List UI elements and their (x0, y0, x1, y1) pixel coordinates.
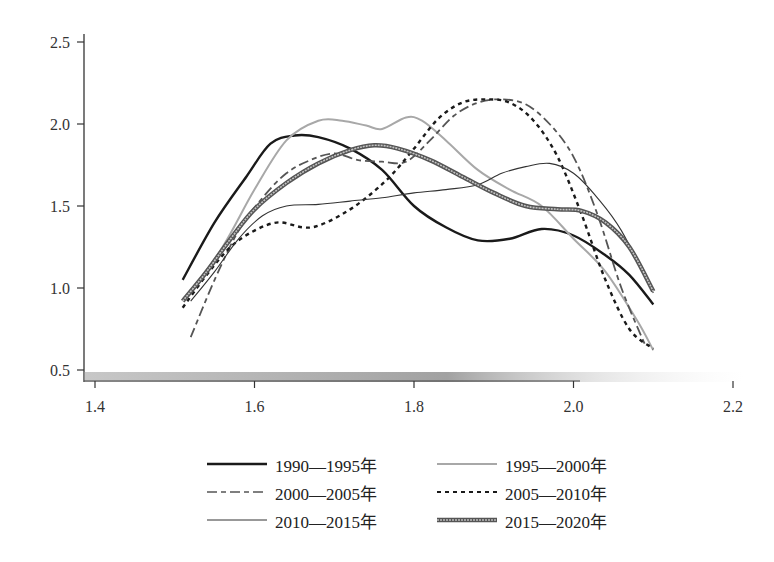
x-axis: 1.41.61.82.02.2 (84, 372, 744, 415)
y-tick-label: 0.5 (50, 362, 70, 379)
y-tick-label: 2.5 (50, 34, 70, 51)
legend-swatch-dotted (435, 487, 497, 497)
legend-label: 2010—2015年 (275, 508, 377, 533)
series-line-3 (183, 99, 654, 348)
y-axis: 0.51.01.52.02.5 (50, 34, 84, 382)
legend-item-2015-2020: 2015—2020年 (435, 508, 665, 533)
legend-item-2000-2005: 2000—2005年 (205, 480, 435, 505)
legend-swatch-solid-thin (205, 515, 267, 525)
series-line-1 (191, 117, 654, 350)
legend-swatch-dash-dot (205, 487, 267, 497)
x-tick-label: 2.0 (564, 398, 584, 415)
x-tick-label: 1.8 (404, 398, 424, 415)
legend-item-2010-2015: 2010—2015年 (205, 508, 435, 533)
legend-swatch-solid-thick (205, 459, 267, 469)
x-tick-label: 2.2 (723, 398, 743, 415)
x-tick-label: 1.6 (245, 398, 265, 415)
legend-label: 1990—1995年 (275, 452, 377, 477)
series-line-4 (191, 163, 654, 301)
legend-swatch-solid-light (435, 459, 497, 469)
y-tick-label: 2.0 (50, 116, 70, 133)
legend-item-1990-1995: 1990—1995年 (205, 452, 435, 477)
series-line-2 (191, 99, 646, 345)
legend-label: 2015—2020年 (505, 508, 607, 533)
y-tick-label: 1.0 (50, 280, 70, 297)
legend-item-2005-2010: 2005—2010年 (435, 480, 665, 505)
line-chart: 0.51.01.52.02.5 1.41.61.82.02.2 (0, 0, 774, 440)
x-tick-label: 1.4 (85, 398, 105, 415)
legend-label: 1995—2000年 (505, 452, 607, 477)
legend-label: 2000—2005年 (275, 480, 377, 505)
y-tick-label: 1.5 (50, 198, 70, 215)
legend: 1990—1995年 1995—2000年 2000—2005年 2005—20… (205, 450, 665, 534)
legend-item-1995-2000: 1995—2000年 (435, 452, 665, 477)
legend-label: 2005—2010年 (505, 480, 607, 505)
plot-area (183, 99, 654, 350)
legend-swatch-double-band (435, 515, 497, 525)
